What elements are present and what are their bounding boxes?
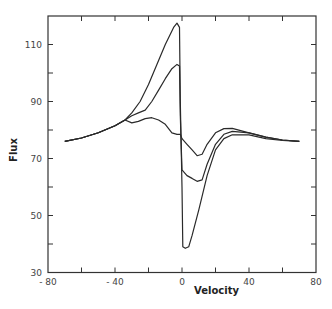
- tick-labels: - 80- 400408030507090110: [25, 40, 322, 287]
- line-chart: - 80- 400408030507090110 Velocity Flux: [0, 0, 332, 309]
- y-axis-title: Flux: [8, 138, 19, 162]
- x-tick-label: 40: [243, 277, 255, 287]
- plot-frame: [48, 16, 316, 273]
- curve-2: [65, 64, 299, 181]
- axis-ticks: [48, 16, 316, 273]
- x-tick-label: 0: [179, 277, 185, 287]
- y-tick-label: 70: [31, 154, 43, 164]
- y-tick-label: 90: [31, 97, 43, 107]
- y-tick-label: 110: [25, 40, 42, 50]
- curve-1: [65, 23, 299, 248]
- x-tick-label: 80: [310, 277, 322, 287]
- x-tick-label: - 80: [39, 277, 57, 287]
- curve-3: [65, 118, 299, 156]
- x-axis-title: Velocity: [194, 285, 239, 296]
- y-tick-label: 30: [31, 268, 43, 278]
- y-tick-label: 50: [31, 211, 43, 221]
- x-tick-label: - 40: [106, 277, 124, 287]
- data-curves: [65, 23, 299, 248]
